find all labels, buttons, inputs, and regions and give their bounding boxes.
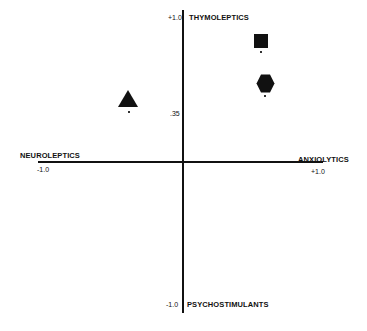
top-tick-label: +1.0 [168,14,182,21]
top-axis-label: THYMOLEPTICS [189,14,249,22]
horizontal-axis [38,161,323,163]
hexagon-marker [256,74,275,93]
right-axis-label: ANXIOLYTICS [298,156,349,164]
mid-tick-label: .35 [170,110,180,117]
square-marker-dot [260,51,262,53]
triangle-marker [118,90,138,108]
left-axis-label: NEUROLEPTICS [20,152,80,160]
bottom-axis-label: PSYCHOSTIMULANTS [187,301,269,309]
bottom-tick-label: -1.0 [166,301,178,308]
square-marker [254,34,269,49]
left-tick-label: -1.0 [37,166,49,173]
hexagon-marker-dot [264,95,266,97]
right-tick-label: +1.0 [311,168,325,175]
triangle-marker-dot [128,111,130,113]
drug-classification-diagram: +1.0 THYMOLEPTICS -1.0 PSYCHOSTIMULANTS … [0,0,367,331]
